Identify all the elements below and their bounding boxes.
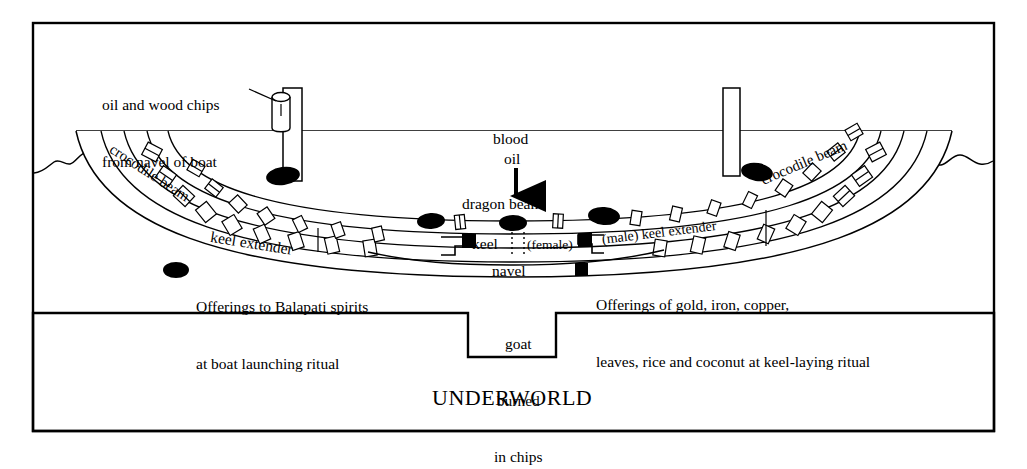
- legend-item-keel-laying: Offerings of gold, iron, copper, leaves,…: [596, 258, 870, 390]
- label-goat-burned-in-chips: goat burned in chips: [494, 297, 543, 469]
- legend-item-keel-laying-line2: leaves, rice and coconut at keel-laying …: [596, 353, 870, 372]
- label-oil-wood-chips-line1: oil and wood chips: [102, 96, 220, 115]
- label-female: (female): [527, 237, 573, 253]
- legend-item-balapati-line1: Offerings to Balapati spirits: [196, 298, 368, 317]
- legend-square-marker: [575, 263, 588, 276]
- label-blood: blood: [493, 130, 528, 149]
- mast-right: [723, 88, 740, 176]
- oil-chips-leader-line: [249, 89, 276, 101]
- label-goat-line3: in chips: [494, 448, 543, 467]
- label-goat-line1: goat: [494, 335, 543, 354]
- label-dragon-beam: dragon beam: [462, 195, 542, 214]
- label-underworld: UNDERWORLD: [432, 385, 592, 412]
- legend-item-balapati: Offerings to Balapati spirits at boat la…: [196, 260, 368, 392]
- oil-chips-cylinder-icon: [272, 93, 290, 132]
- label-navel: navel: [492, 262, 526, 281]
- legend-item-keel-laying-line1: Offerings of gold, iron, copper,: [596, 296, 870, 315]
- label-keel: keel: [472, 235, 498, 254]
- label-oil: oil: [504, 150, 520, 169]
- legend-ellipse-marker: [163, 262, 189, 278]
- legend-item-balapati-line2: at boat launching ritual: [196, 355, 368, 374]
